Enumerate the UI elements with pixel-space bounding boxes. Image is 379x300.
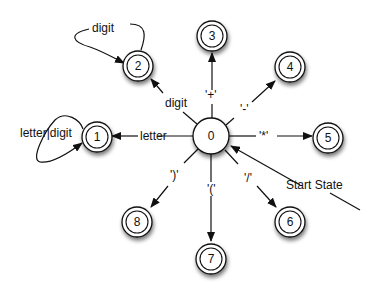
state-7: 7 — [196, 244, 226, 274]
label-lparen: '(' — [207, 182, 216, 196]
state-6: 6 — [275, 207, 305, 237]
label-digit: digit — [165, 96, 188, 110]
label-start-state: Start State — [286, 178, 343, 192]
label-rparen: ')' — [170, 168, 179, 182]
svg-text:5: 5 — [325, 131, 332, 145]
label-slash: '/' — [244, 171, 252, 185]
state-0: 0 — [193, 118, 229, 154]
label-letter-or-digit: letter|digit — [20, 126, 72, 140]
state-3: 3 — [197, 21, 227, 51]
svg-text:7: 7 — [208, 252, 215, 266]
svg-text:2: 2 — [135, 59, 142, 73]
svg-text:1: 1 — [94, 130, 101, 144]
edge-0-to-4 — [226, 81, 275, 125]
label-plus: '+' — [205, 88, 217, 102]
svg-text:8: 8 — [134, 215, 141, 229]
state-1: 1 — [82, 122, 112, 152]
state-diagram: letter digit '+' '-' '*' '/' '(' ')' let… — [0, 0, 379, 300]
label-star: '*' — [259, 129, 268, 143]
label-minus: '-' — [240, 102, 249, 116]
svg-text:0: 0 — [208, 129, 215, 143]
state-4: 4 — [275, 52, 305, 82]
svg-text:6: 6 — [287, 215, 294, 229]
label-digit-loop: digit — [92, 21, 115, 35]
svg-text:3: 3 — [209, 29, 216, 43]
state-8: 8 — [122, 207, 152, 237]
svg-text:4: 4 — [287, 60, 294, 74]
label-letter: letter — [140, 129, 167, 143]
state-5: 5 — [313, 123, 343, 153]
state-2: 2 — [123, 51, 153, 81]
